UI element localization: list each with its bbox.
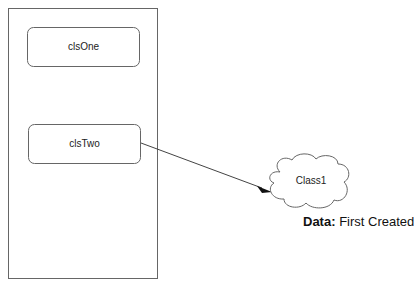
connector-line[interactable] xyxy=(141,143,262,188)
data-annotation: Data: First Created xyxy=(303,214,414,229)
arrowhead-icon xyxy=(257,186,272,193)
clstwo-label: clsTwo xyxy=(28,138,141,149)
cloud-label: Class1 xyxy=(272,175,350,186)
data-annotation-value: First Created xyxy=(339,214,414,229)
data-annotation-key: Data: xyxy=(303,214,336,229)
clsone-label: clsOne xyxy=(27,41,140,52)
